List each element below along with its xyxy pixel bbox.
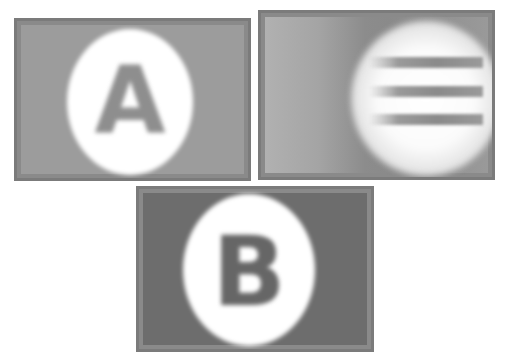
white-glow (351, 21, 495, 176)
panel-stripes (258, 10, 495, 180)
letter-b: B (199, 217, 299, 327)
figure-caption (14, 355, 434, 362)
panel-a: A (14, 18, 251, 181)
stripe-2 (369, 86, 483, 97)
panel-b: B (136, 186, 374, 352)
stripe-1 (369, 57, 483, 68)
letter-a: A (80, 51, 180, 151)
stripe-3 (369, 114, 483, 125)
